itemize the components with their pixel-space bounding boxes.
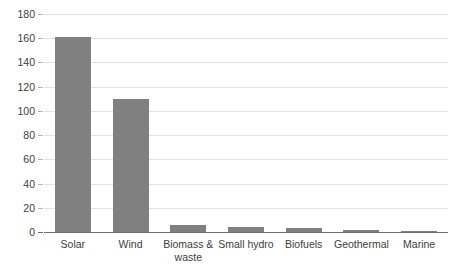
y-axis-tick-label: 160 — [17, 33, 35, 44]
y-axis-tick-label: 20 — [23, 203, 35, 214]
bar-slot — [44, 14, 102, 232]
y-axis-tick-label: 100 — [17, 106, 35, 117]
x-axis-category-label: Marine — [386, 238, 452, 251]
x-axis-category-label: Biofuels — [271, 238, 337, 251]
bar-chart: 020406080100120140160180 SolarWindBiomas… — [0, 0, 453, 273]
y-axis-tick — [38, 14, 43, 15]
axis-baseline: 0 — [44, 232, 448, 233]
y-axis-tick-label: 80 — [23, 130, 35, 141]
y-axis-tick — [38, 111, 43, 112]
bar-slot — [275, 14, 333, 232]
bar-slot — [333, 14, 391, 232]
y-axis-tick — [38, 208, 43, 209]
plot-area: 020406080100120140160180 — [44, 14, 448, 232]
bar[interactable] — [228, 227, 264, 232]
y-axis-tick — [38, 87, 43, 88]
y-axis-tick-label: 60 — [23, 154, 35, 165]
bar[interactable] — [170, 225, 206, 232]
y-axis-tick — [38, 38, 43, 39]
x-axis-category-label: Geothermal — [328, 238, 394, 251]
x-axis-category-label: Wind — [98, 238, 164, 251]
y-axis-tick-label: 0 — [29, 227, 35, 238]
bar-slot — [217, 14, 275, 232]
x-axis-category-label: Biomass & waste — [155, 238, 221, 264]
bar[interactable] — [286, 228, 322, 232]
x-axis-category-label: Solar — [40, 238, 106, 251]
y-axis-tick — [38, 62, 43, 63]
bar-slot — [102, 14, 160, 232]
bars-group — [44, 14, 448, 232]
bar[interactable] — [343, 230, 379, 232]
y-axis-tick — [38, 159, 43, 160]
bar-slot — [390, 14, 448, 232]
y-axis-tick-label: 40 — [23, 178, 35, 189]
bar[interactable] — [113, 99, 149, 232]
y-axis-tick-label: 120 — [17, 81, 35, 92]
bar[interactable] — [401, 231, 437, 232]
bar-slot — [159, 14, 217, 232]
y-axis-tick — [38, 135, 43, 136]
x-axis-category-label: Small hydro — [213, 238, 279, 251]
y-axis-tick-label: 140 — [17, 57, 35, 68]
bar[interactable] — [55, 37, 91, 232]
y-axis-tick — [38, 184, 43, 185]
y-axis-tick — [38, 232, 43, 233]
y-axis-tick-label: 180 — [17, 9, 35, 20]
